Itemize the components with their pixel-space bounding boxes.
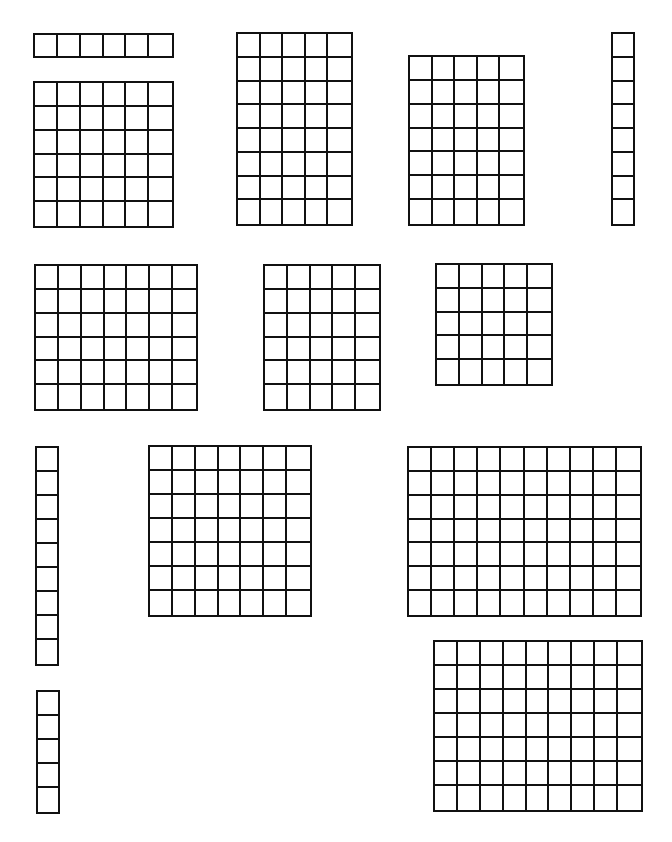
grid-cell (478, 81, 501, 105)
grid-cell (173, 385, 196, 409)
grid-cell (458, 714, 481, 738)
grid-cell (150, 543, 173, 567)
grid-cell (150, 447, 173, 471)
grid-cell (455, 543, 478, 567)
grid-cell (104, 83, 127, 107)
grid-cell (219, 591, 242, 615)
grid-cell (173, 543, 196, 567)
grid-cell (572, 642, 595, 666)
grid-cell (433, 105, 456, 129)
grid-cell (455, 520, 478, 544)
grid-cell (356, 266, 379, 290)
grid-cell (481, 786, 504, 810)
grid-cell (504, 714, 527, 738)
grid-cell (82, 290, 105, 314)
grid-cell (219, 471, 242, 495)
grid-cell (58, 83, 81, 107)
grid-cell (196, 591, 219, 615)
grid-cell (356, 385, 379, 409)
grid-cell (595, 666, 618, 690)
grid-cell (196, 519, 219, 543)
grid-cell (38, 692, 58, 716)
grid-cell (481, 642, 504, 666)
grid-cell (460, 336, 483, 360)
grid-cell (595, 762, 618, 786)
grid-cell (287, 471, 310, 495)
grid-cell (196, 543, 219, 567)
grid-cell (150, 385, 173, 409)
grid-cell (594, 496, 617, 520)
grid-cell (504, 642, 527, 666)
grid-cell (81, 202, 104, 226)
grid-cell (81, 107, 104, 131)
grid-cell (549, 786, 572, 810)
grid-cell (149, 131, 172, 155)
grid-cell (527, 738, 550, 762)
grid-cell (594, 448, 617, 472)
grid-cell (571, 543, 594, 567)
grid-cell (288, 361, 311, 385)
grid-cell (455, 591, 478, 615)
grid-cell (618, 642, 641, 666)
grid-cell (173, 495, 196, 519)
grid-cell (126, 131, 149, 155)
grid-cell (460, 289, 483, 313)
grid-cell (432, 520, 455, 544)
grid-cell (150, 495, 173, 519)
grid-cell (572, 762, 595, 786)
grid-array-strip-8x1 (611, 32, 635, 226)
grid-cell (261, 129, 284, 153)
grid-cell (328, 34, 351, 58)
grid-array-grid-5x6 (263, 264, 381, 411)
grid-cell (548, 543, 571, 567)
grid-cell (104, 107, 127, 131)
grid-cell (528, 360, 551, 384)
grid-cell (432, 543, 455, 567)
grid-cell (618, 762, 641, 786)
grid-cell (548, 496, 571, 520)
grid-cell (613, 200, 633, 224)
grid-cell (241, 495, 264, 519)
grid-cell (241, 471, 264, 495)
grid-cell (283, 129, 306, 153)
grid-cell (149, 178, 172, 202)
grid-cell (82, 314, 105, 338)
grid-cell (481, 738, 504, 762)
grid-cell (478, 543, 501, 567)
grid-cell (150, 361, 173, 385)
grid-cell (410, 105, 433, 129)
grid-cell (287, 567, 310, 591)
grid-cell (288, 290, 311, 314)
grid-cell (149, 83, 172, 107)
grid-cell (37, 640, 57, 664)
grid-cell (283, 200, 306, 224)
grid-cell (37, 448, 57, 472)
grid-cell (548, 591, 571, 615)
grid-cell (409, 496, 432, 520)
grid-cell (261, 105, 284, 129)
grid-cell (241, 591, 264, 615)
grid-cell (594, 567, 617, 591)
grid-cell (127, 314, 150, 338)
grid-cell (478, 448, 501, 472)
grid-cell (571, 448, 594, 472)
grid-cell (410, 57, 433, 81)
grid-cell (613, 58, 633, 82)
grid-cell (36, 338, 59, 362)
grid-cell (460, 313, 483, 337)
grid-cell (455, 105, 478, 129)
grid-cell (613, 153, 633, 177)
grid-cell (455, 129, 478, 153)
grid-cell (478, 567, 501, 591)
grid-cell (36, 266, 59, 290)
grid-cell (328, 105, 351, 129)
grid-cell (525, 520, 548, 544)
grid-cell (328, 58, 351, 82)
grid-cell (478, 591, 501, 615)
grid-cell (328, 200, 351, 224)
grid-cell (460, 265, 483, 289)
grid-array-grid-5x7-a (408, 55, 525, 226)
grid-cell (58, 35, 81, 56)
grid-array-grid-5x8 (236, 32, 353, 226)
grid-cell (37, 544, 57, 568)
